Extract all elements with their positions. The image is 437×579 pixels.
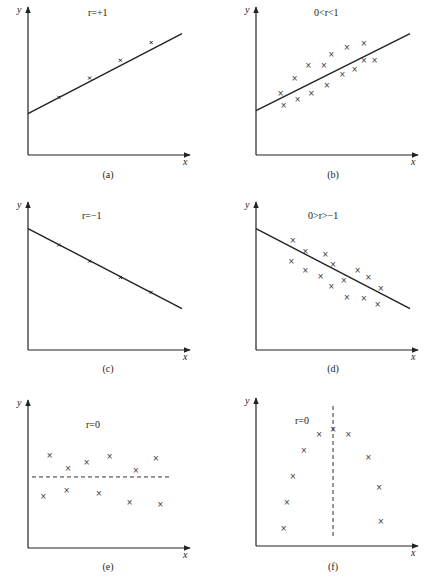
data-point: × xyxy=(126,498,133,507)
data-point: × xyxy=(340,276,347,285)
data-point: × xyxy=(302,266,309,275)
correlation-annotation: r=−1 xyxy=(82,210,102,221)
correlation-annotation: r=+1 xyxy=(88,7,108,18)
y-axis-label: y xyxy=(244,395,250,406)
correlation-annotation: r=0 xyxy=(86,419,100,430)
data-point: × xyxy=(302,247,309,256)
data-point: × xyxy=(376,483,383,492)
correlation-annotation: 0<r<1 xyxy=(314,7,339,18)
data-point: × xyxy=(132,466,139,475)
data-point: × xyxy=(344,293,351,302)
regression-line xyxy=(28,229,182,309)
x-axis-label: x xyxy=(182,549,188,560)
panel-caption: (c) xyxy=(102,363,113,375)
data-point: × xyxy=(277,89,284,98)
data-point: × xyxy=(365,453,372,462)
data-point: × xyxy=(317,272,324,281)
y-axis-label: y xyxy=(16,4,22,15)
data-point: × xyxy=(290,472,297,481)
data-point: × xyxy=(377,284,384,293)
y-axis-label: y xyxy=(16,397,22,408)
panel-b: yx0<r<1(b)××××××××××××××× xyxy=(244,4,418,181)
data-point: × xyxy=(280,524,287,533)
data-point: × xyxy=(330,425,337,434)
correlation-figure: yxr=+1(a)yx0<r<1(b)×××××××××××××××yxr=−1… xyxy=(0,0,437,579)
data-point: × xyxy=(354,266,361,275)
data-point: × xyxy=(360,56,367,65)
data-point: × xyxy=(377,517,384,526)
data-point: × xyxy=(65,464,72,473)
data-point: × xyxy=(283,498,290,507)
data-point: × xyxy=(316,430,323,439)
data-point: × xyxy=(46,451,53,460)
panel-caption: (b) xyxy=(327,169,339,181)
data-point: × xyxy=(152,454,159,463)
data-point: × xyxy=(365,273,372,282)
data-point: × xyxy=(374,300,381,309)
data-point: × xyxy=(345,430,352,439)
data-point: × xyxy=(308,89,315,98)
data-point: × xyxy=(290,236,297,245)
panel-caption: (d) xyxy=(327,363,339,375)
data-point: × xyxy=(280,101,287,110)
data-point: × xyxy=(83,458,90,467)
panel-e: yxr=0(e)××××××××××× xyxy=(16,397,190,573)
data-point: × xyxy=(330,260,337,269)
data-point: × xyxy=(339,70,346,79)
data-point: × xyxy=(322,250,329,259)
regression-line xyxy=(256,34,410,111)
data-point: × xyxy=(300,446,307,455)
x-axis-label: x xyxy=(182,351,188,362)
data-point: × xyxy=(351,65,358,74)
correlation-annotation: r=0 xyxy=(295,415,309,426)
data-point: × xyxy=(63,486,70,495)
data-point: × xyxy=(294,95,301,104)
data-point: × xyxy=(323,81,330,90)
y-axis-label: y xyxy=(244,199,250,210)
data-point: × xyxy=(328,282,335,291)
panel-caption: (f) xyxy=(328,561,338,573)
correlation-annotation: 0>r>−1 xyxy=(308,210,338,221)
y-axis-label: y xyxy=(244,4,250,15)
data-point: × xyxy=(360,294,367,303)
regression-line xyxy=(28,34,182,114)
y-axis-label: y xyxy=(16,199,22,210)
data-point: × xyxy=(40,492,47,501)
data-point: × xyxy=(305,61,312,70)
panel-f: yxr=0(f)×××××××××× xyxy=(244,395,418,573)
panel-a: yxr=+1(a) xyxy=(16,4,190,181)
data-point: × xyxy=(320,61,327,70)
x-axis-label: x xyxy=(410,156,416,167)
data-point: × xyxy=(106,452,113,461)
x-axis-label: x xyxy=(182,156,188,167)
data-point: × xyxy=(360,39,367,48)
data-point: × xyxy=(344,43,351,52)
panel-caption: (e) xyxy=(102,561,113,573)
panel-d: yx0>r>−1(d)××××××××××××××× xyxy=(244,199,418,375)
data-point: × xyxy=(288,257,295,266)
x-axis-label: x xyxy=(410,547,416,558)
data-point: × xyxy=(157,500,164,509)
data-point: × xyxy=(371,56,378,65)
panel-c: yxr=−1(c) xyxy=(16,199,190,375)
x-axis-label: x xyxy=(410,351,416,362)
data-point: × xyxy=(95,489,102,498)
data-point: × xyxy=(328,50,335,59)
panel-caption: (a) xyxy=(102,169,113,181)
data-point: × xyxy=(291,74,298,83)
